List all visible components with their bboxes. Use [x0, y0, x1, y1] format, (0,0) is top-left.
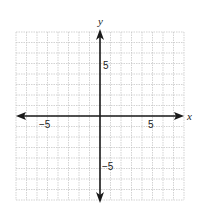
coordinate-plane: x y −5 5 5 −5 — [0, 0, 200, 214]
x-axis-label: x — [186, 110, 192, 122]
y-tick-label-neg5: −5 — [102, 161, 114, 172]
y-tick-label-pos5: 5 — [103, 60, 109, 71]
x-tick-label-pos5: 5 — [148, 119, 154, 130]
y-axis-label: y — [97, 15, 103, 27]
x-tick-label-neg5: −5 — [39, 119, 51, 130]
